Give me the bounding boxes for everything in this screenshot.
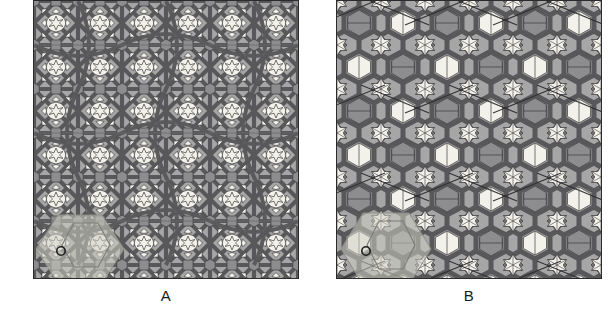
panel-label-a: A — [161, 288, 172, 303]
panel-a-pattern-field — [34, 1, 298, 278]
panel-a-tiling — [33, 0, 299, 279]
panel-b-pattern-field — [337, 1, 601, 278]
panel-b-tiling — [336, 0, 602, 279]
panel-wrapper-b: B — [336, 0, 602, 303]
panel-b-svg — [337, 1, 601, 278]
panel-label-b: B — [464, 288, 475, 303]
figure-container: A — [0, 0, 616, 332]
panel-wrapper-a: A — [33, 0, 299, 303]
panel-a-svg — [34, 1, 298, 278]
